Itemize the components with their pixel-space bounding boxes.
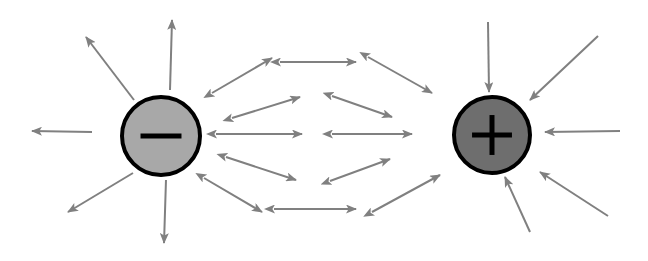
arrow-pos-down-top <box>488 22 489 92</box>
positive-charge: positive charge (+) <box>454 97 530 173</box>
arrow-lower-outer-right <box>372 175 440 212</box>
arrow-upper-inner-right <box>332 96 392 117</box>
positive-charge-sign-vertical-stroke <box>490 115 495 155</box>
arrow-pos-downright-in <box>540 172 608 216</box>
charge-bodies: negative charge (−)positive charge (+) <box>122 97 530 175</box>
dipole-field-diagram: negative charge (−)positive charge (+) <box>0 0 648 261</box>
arrow-lower-inner-left <box>226 157 296 180</box>
arrow-neg-upleft <box>86 37 134 100</box>
arrow-pos-right <box>545 131 620 132</box>
dipole-field-arrows <box>204 57 440 212</box>
negative-charge: negative charge (−) <box>122 97 200 175</box>
arrow-neg-down <box>164 180 166 243</box>
arrow-pos-upright-in <box>530 36 598 100</box>
field-canvas: negative charge (−)positive charge (+) <box>0 0 648 261</box>
arrow-lower-inner-right <box>330 159 390 181</box>
arrow-upper-outer-right <box>368 57 432 93</box>
arrow-lower-outer-left <box>204 178 262 212</box>
arrow-upper-inner-left <box>232 97 300 118</box>
arrow-pos-up-bottom <box>505 177 530 232</box>
arrow-neg-downleft <box>68 173 133 212</box>
arrow-neg-up <box>170 20 172 90</box>
arrow-neg-left <box>32 131 92 132</box>
arrow-upper-outer-left <box>212 58 272 93</box>
negative-charge-sign-horizontal-stroke <box>141 134 182 139</box>
